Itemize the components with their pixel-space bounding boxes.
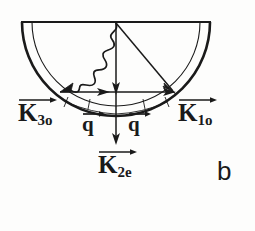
k1o-subscript: 1o	[197, 112, 212, 128]
q-left-symbol: q	[82, 112, 94, 136]
q-left-vector-group: q	[82, 112, 94, 135]
photon-arrowhead	[60, 83, 73, 92]
diagonal-line	[116, 23, 173, 91]
angle-tick-2	[88, 99, 90, 109]
k2e-subscript: 2e	[117, 164, 131, 180]
label-k2e: K2e	[98, 150, 132, 180]
wavy-photon-line	[67, 23, 117, 92]
k1o-vector-group: K	[178, 98, 197, 125]
label-q-right: q	[128, 112, 140, 135]
label-q-left: q	[82, 112, 94, 135]
k3o-subscript: 3o	[37, 112, 52, 128]
figure-panel-b: K3o K1o K2e q	[0, 0, 255, 231]
panel-label-b: b	[217, 158, 231, 184]
k3o-vector-group: K	[18, 98, 37, 125]
k1o-symbol: K	[178, 99, 197, 126]
q-right-vector-group: q	[128, 112, 140, 135]
label-k1o: K1o	[178, 98, 212, 128]
label-k3o: K3o	[18, 98, 52, 128]
k2e-symbol: K	[98, 151, 117, 178]
k3o-symbol: K	[18, 99, 37, 126]
k2e-vector-group: K	[98, 150, 117, 177]
q-right-symbol: q	[128, 112, 140, 136]
